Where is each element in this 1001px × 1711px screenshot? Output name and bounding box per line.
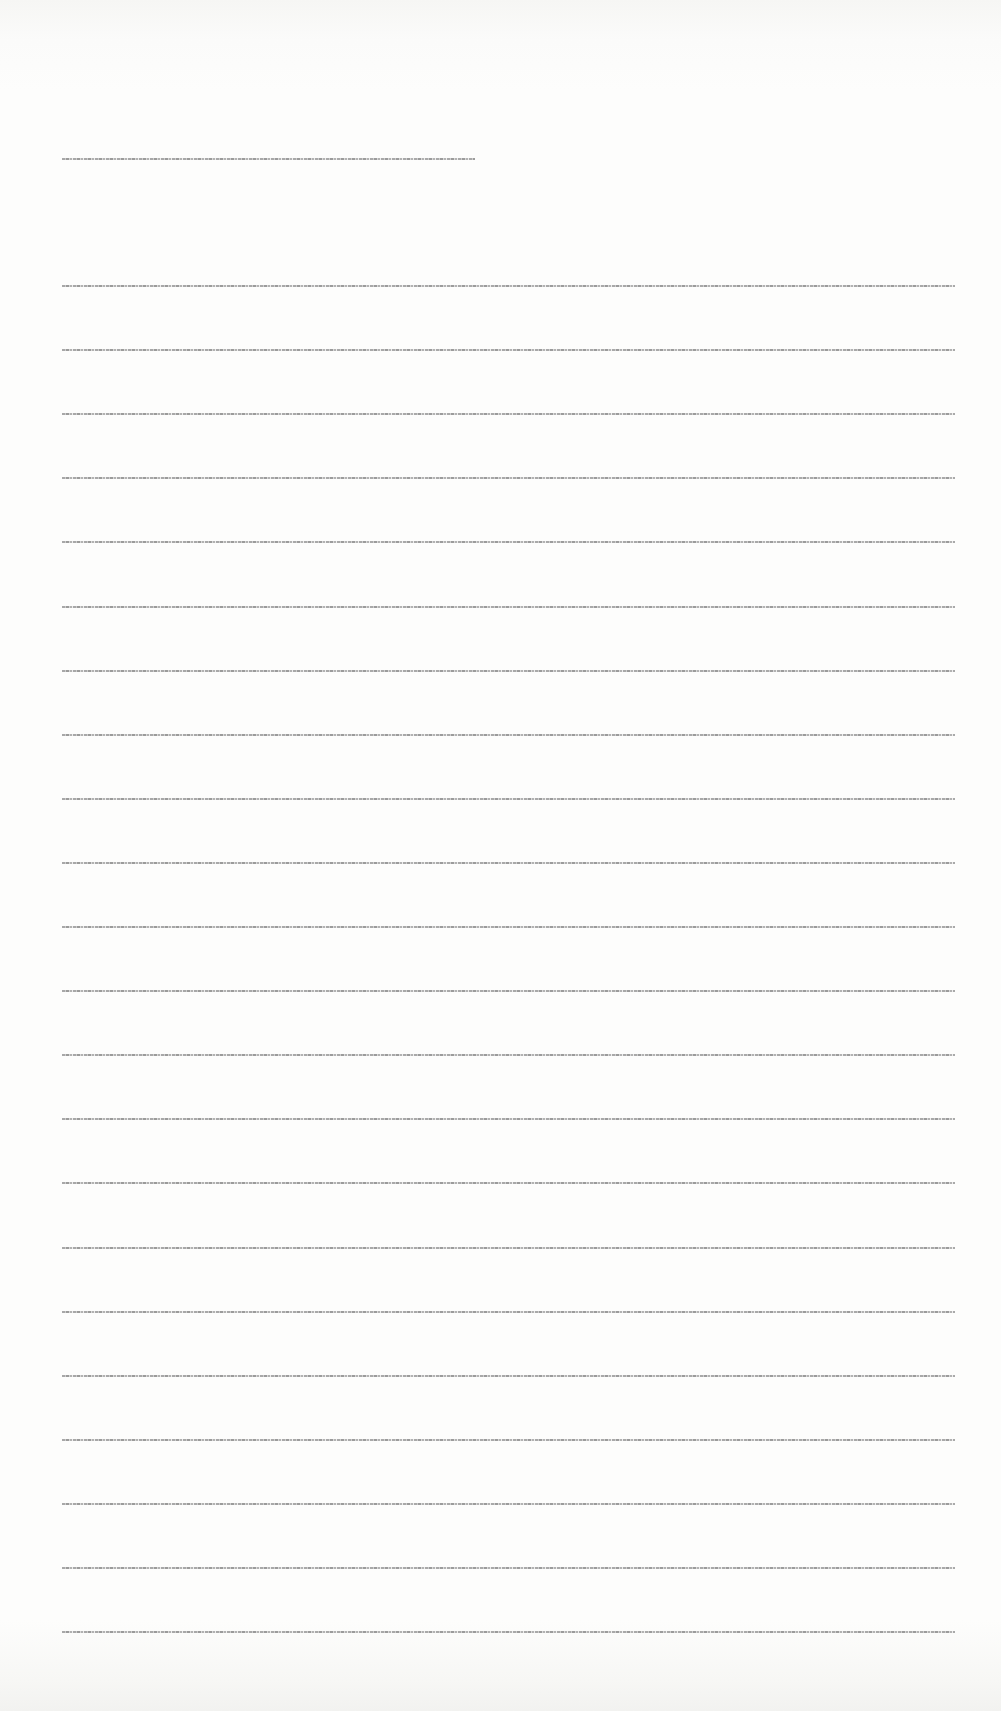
text-line-content: [illegible line 11] <box>62 920 955 922</box>
text-line-content: [illegible line 5] <box>62 535 955 537</box>
text-line: [illegible line 9] <box>62 798 955 800</box>
text-line-content: [illegible line 15] <box>62 1176 955 1178</box>
text-line: [illegible line 3] <box>62 413 955 415</box>
text-line-content: [illegible line 18] <box>62 1369 955 1371</box>
text-line-content: [illegible line 2] <box>62 343 955 345</box>
text-line-content: [illegible line 1] <box>62 279 955 281</box>
text-line-content: [illegible line 20] <box>62 1497 955 1499</box>
text-line: [illegible line 2] <box>62 349 955 351</box>
heading-line: [illegible — text rendered at sub-pixel … <box>62 158 475 160</box>
text-line-content: [illegible line 10] <box>62 856 955 858</box>
heading-text: [illegible — text rendered at sub-pixel … <box>62 152 475 154</box>
text-line-content: [illegible line 21] <box>62 1561 955 1563</box>
text-line: [illegible line 16] <box>62 1247 955 1249</box>
text-line: [illegible line 1] <box>62 285 955 287</box>
text-line: [illegible line 8] <box>62 734 955 736</box>
text-line-content: [illegible line 6] <box>62 600 955 602</box>
text-line: [illegible line 21] <box>62 1567 955 1569</box>
text-line: [illegible line 12] <box>62 990 955 992</box>
text-line: [illegible line 11] <box>62 926 955 928</box>
text-line: [illegible line 18] <box>62 1375 955 1377</box>
text-line-content: [illegible line 14] <box>62 1112 955 1114</box>
text-line: [illegible line 17] <box>62 1311 955 1313</box>
text-line-content: [illegible line 17] <box>62 1305 955 1307</box>
text-line-content: [illegible line 12] <box>62 984 955 986</box>
text-line: [illegible line 19] <box>62 1439 955 1441</box>
text-line: [illegible line 4] <box>62 477 955 479</box>
text-line: [illegible line 7] <box>62 670 955 672</box>
text-line: [illegible line 22] <box>62 1631 955 1633</box>
text-line-content: [illegible line 19] <box>62 1433 955 1435</box>
text-line: [illegible line 6] <box>62 606 955 608</box>
text-line: [illegible line 14] <box>62 1118 955 1120</box>
text-line-content: [illegible line 7] <box>62 664 955 666</box>
text-line-content: [illegible line 13] <box>62 1048 955 1050</box>
text-line-content: [illegible line 4] <box>62 471 955 473</box>
text-line: [illegible line 13] <box>62 1054 955 1056</box>
text-line: [illegible line 10] <box>62 862 955 864</box>
text-line: [illegible line 5] <box>62 541 955 543</box>
text-line: [illegible line 15] <box>62 1182 955 1184</box>
text-line-content: [illegible line 9] <box>62 792 955 794</box>
text-line: [illegible line 20] <box>62 1503 955 1505</box>
text-line-content: [illegible line 16] <box>62 1241 955 1243</box>
text-line-content: [illegible line 22] <box>62 1625 955 1627</box>
text-line-content: [illegible line 8] <box>62 728 955 730</box>
text-line-content: [illegible line 3] <box>62 407 955 409</box>
